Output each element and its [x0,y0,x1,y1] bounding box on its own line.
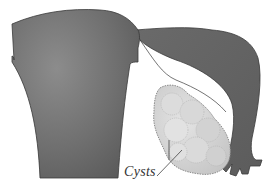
ovary-with-cysts [154,85,231,174]
anatomical-illustration: Cysts [0,0,277,192]
cysts-label: Cysts [124,164,156,180]
uterus [12,10,140,178]
